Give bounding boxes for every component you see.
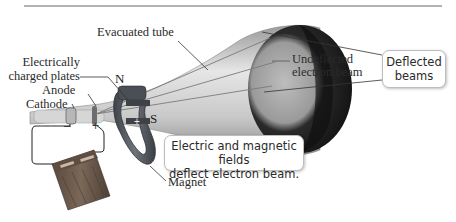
crt-diagram: Evacuated tube Electrically charged plat… [0, 0, 456, 222]
leader-anode [88, 94, 96, 106]
battery-negative-sign: – [64, 119, 71, 133]
callout-fields-deflect: Electric and magnetic fields deflect ele… [164, 135, 304, 171]
plate-positive-sign: + [134, 116, 140, 127]
north-pole-label: N [115, 71, 124, 87]
south-pole-label: S [150, 111, 157, 127]
label-anode: Anode [42, 84, 75, 97]
leader-evacuated [178, 41, 208, 70]
callout-deflected-line2: beams [383, 69, 445, 83]
label-undeflected-2: electron beam [292, 66, 362, 79]
battery-positive-sign: + [92, 119, 99, 133]
label-charged-plates-2: charged plates [2, 70, 80, 83]
tube-screen [248, 25, 352, 153]
callout-fields-line2: deflect electron beam. [165, 167, 303, 181]
label-evacuated-tube: Evacuated tube [97, 26, 174, 39]
callout-deflected-beams: Deflected beams [382, 50, 446, 88]
label-charged-plates-1: Electrically [12, 56, 80, 69]
leader-magnet [150, 166, 166, 181]
charged-plates [126, 100, 150, 106]
battery [52, 150, 110, 210]
label-cathode: Cathode [26, 98, 68, 111]
callout-deflected-line1: Deflected [383, 55, 445, 69]
diagram-artwork [0, 0, 456, 222]
callout-fields-line1: Electric and magnetic fields [165, 139, 303, 167]
